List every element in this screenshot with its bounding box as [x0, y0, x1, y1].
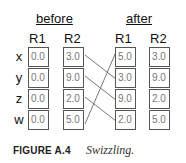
before-r1-y: 0.0 — [28, 68, 49, 88]
after-r1-y: 3.0 — [115, 68, 136, 88]
before-r2-w: 5.0 — [63, 110, 84, 130]
after-r1-x: 5.0 — [115, 47, 136, 67]
after-r2-x: 3.0 — [149, 47, 170, 67]
after-r2-z: 2.0 — [149, 89, 170, 109]
after-r1-z: 9.0 — [115, 89, 136, 109]
before-r2-y: 9.0 — [63, 68, 84, 88]
before-r2-z: 2.0 — [63, 89, 84, 109]
connection-line — [85, 55, 116, 79]
before-r1-z: 0.0 — [28, 89, 49, 109]
connection-line — [85, 97, 116, 121]
before-r2-x: 3.0 — [63, 47, 84, 67]
after-r2-w: 5.0 — [149, 110, 170, 130]
figure-label: FIGURE A.4 — [13, 145, 71, 156]
figure-caption: Swizzling. — [86, 143, 134, 158]
connection-line — [85, 52, 116, 124]
before-r1-w: 0.0 — [28, 110, 49, 130]
after-r2-y: 9.0 — [149, 68, 170, 88]
before-r1-x: 0.0 — [28, 47, 49, 67]
after-r1-w: 2.0 — [115, 110, 136, 130]
